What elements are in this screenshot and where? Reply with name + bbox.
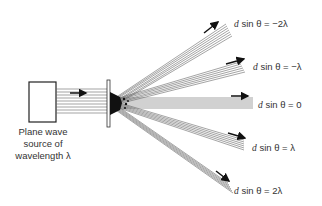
order-label-plus2: d sin θ = 2λ bbox=[234, 186, 282, 197]
beam-order-0 bbox=[112, 98, 253, 108]
source-label-line2: source of bbox=[4, 138, 82, 150]
source-label-line1: Plane wave bbox=[4, 126, 82, 138]
source-label: Plane wave source of wavelength λ bbox=[4, 126, 82, 162]
order-label-0: d sin θ = 0 bbox=[258, 100, 302, 111]
beam-order-minus2 bbox=[112, 24, 232, 106]
grating bbox=[107, 80, 110, 127]
beam-order-plus1 bbox=[113, 101, 244, 150]
source-label-line3: wavelength λ bbox=[4, 150, 82, 162]
arrow-minus2-icon bbox=[204, 22, 218, 33]
order-label-plus1: d sin θ = λ bbox=[252, 143, 295, 154]
order-label-minus1: d sin θ = −λ bbox=[253, 62, 302, 73]
beam-order-plus2 bbox=[113, 103, 233, 193]
source-box bbox=[29, 82, 56, 122]
beam-order-minus1 bbox=[112, 62, 245, 105]
order-label-minus2: d sin θ = −2λ bbox=[234, 19, 288, 30]
arrow-plus1-icon bbox=[228, 133, 245, 138]
